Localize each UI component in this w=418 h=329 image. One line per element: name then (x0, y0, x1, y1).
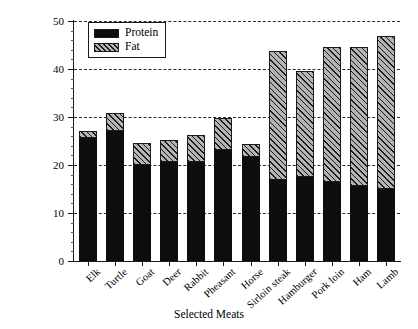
bar-segment-protein (350, 186, 368, 261)
x-tick (305, 261, 306, 266)
x-axis-line (73, 261, 401, 262)
y-minor-tick (71, 31, 74, 32)
y-tick-label: 50 (34, 16, 64, 27)
x-tick (278, 261, 279, 266)
y-minor-tick (71, 184, 74, 185)
solid-black-swatch-icon (94, 29, 119, 38)
chart-legend: Protein Fat (88, 22, 166, 58)
bar-lamb[interactable] (377, 21, 395, 261)
x-tick-label-turtle: Turtle (103, 266, 130, 291)
bar-segment-fat (106, 113, 124, 131)
bar-hamburger[interactable] (296, 21, 314, 261)
y-minor-tick (71, 107, 74, 108)
x-tick (196, 261, 197, 266)
bar-segment-protein (377, 189, 395, 261)
x-tick-label-elk: Elk (84, 266, 102, 284)
x-tick (386, 261, 387, 266)
y-tick-label: 10 (34, 208, 64, 219)
y-minor-tick (71, 98, 74, 99)
y-tick-label: 0 (34, 256, 64, 267)
bar-segment-fat (323, 47, 341, 181)
bar-segment-protein (79, 138, 97, 261)
bar-segment-protein (323, 182, 341, 261)
bar-horse[interactable] (242, 21, 260, 261)
x-tick (142, 261, 143, 266)
x-tick-label-goat: Goat (133, 266, 156, 288)
legend-label-fat: Fat (125, 41, 140, 53)
x-tick-label-lamb: Lamb (375, 266, 401, 291)
bar-chart: Grams (per 100 grams) 01020304050 ElkTur… (0, 0, 418, 329)
y-minor-tick (71, 223, 74, 224)
bar-segment-protein (187, 162, 205, 261)
hatched-swatch-icon (94, 43, 119, 52)
y-minor-tick (71, 155, 74, 156)
y-major-tick (68, 69, 74, 70)
x-tick-label-deer: Deer (161, 266, 184, 288)
bar-segment-fat (133, 143, 151, 165)
y-minor-tick (71, 242, 74, 243)
x-tick (359, 261, 360, 266)
y-major-tick (68, 261, 74, 262)
bar-segment-fat (79, 131, 97, 137)
x-tick (223, 261, 224, 266)
bar-segment-protein (106, 131, 124, 261)
bar-segment-protein (133, 165, 151, 261)
y-minor-tick (71, 79, 74, 80)
bar-segment-protein (214, 150, 232, 261)
y-minor-tick (71, 175, 74, 176)
bar-segment-fat (160, 140, 178, 162)
y-major-tick (68, 21, 74, 22)
y-minor-tick (71, 40, 74, 41)
legend-item-fat: Fat (94, 40, 158, 54)
y-minor-tick (71, 232, 74, 233)
bar-segment-fat (377, 36, 395, 189)
y-minor-tick (71, 146, 74, 147)
x-tick (332, 261, 333, 266)
y-tick-label: 40 (34, 64, 64, 75)
y-tick-label: 30 (34, 112, 64, 123)
bar-pheasant[interactable] (214, 21, 232, 261)
bar-segment-protein (242, 157, 260, 261)
x-tick-label-ham: Ham (351, 266, 374, 288)
bar-segment-fat (269, 51, 287, 180)
y-minor-tick (71, 194, 74, 195)
bar-segment-protein (160, 162, 178, 261)
y-minor-tick (71, 127, 74, 128)
y-minor-tick (71, 251, 74, 252)
y-major-tick (68, 213, 74, 214)
bar-ham[interactable] (350, 21, 368, 261)
bar-segment-protein (269, 180, 287, 261)
x-tick (88, 261, 89, 266)
bar-segment-fat (350, 47, 368, 186)
bar-segment-protein (296, 177, 314, 261)
bar-segment-fat (214, 118, 232, 150)
legend-item-protein: Protein (94, 26, 158, 40)
bar-rabbit[interactable] (187, 21, 205, 261)
x-tick (169, 261, 170, 266)
y-minor-tick (71, 50, 74, 51)
y-major-tick (68, 165, 74, 166)
y-minor-tick (71, 59, 74, 60)
y-minor-tick (71, 136, 74, 137)
y-minor-tick (71, 203, 74, 204)
x-tick (251, 261, 252, 266)
legend-label-protein: Protein (125, 27, 158, 39)
bar-segment-fat (296, 71, 314, 177)
y-tick-label: 20 (34, 160, 64, 171)
bar-sirloin-steak[interactable] (269, 21, 287, 261)
y-minor-tick (71, 88, 74, 89)
bar-pork-loin[interactable] (323, 21, 341, 261)
bar-segment-fat (187, 135, 205, 162)
x-axis-title: Selected Meats (0, 308, 418, 320)
bar-segment-fat (242, 144, 260, 157)
y-major-tick (68, 117, 74, 118)
x-tick (115, 261, 116, 266)
